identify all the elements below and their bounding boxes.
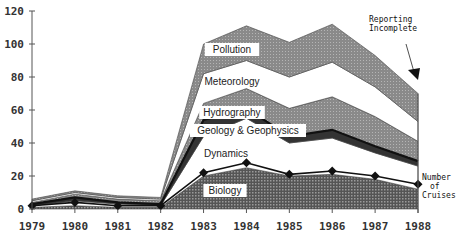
svg-text:Biology: Biology [209,185,242,196]
svg-text:Dynamics: Dynamics [204,148,248,159]
series-label-dynamics: Dynamics [204,148,248,159]
number-of-cruises-label: Number [422,173,451,182]
stacked-area-chart: 0204060801001201979198019811982198319841… [0,0,456,236]
reporting-incomplete-label: Reporting [369,15,413,24]
x-tick-label: 1986 [319,220,346,233]
svg-text:Cruises: Cruises [422,191,456,200]
x-tick-label: 1983 [190,220,217,233]
series-label-geology-geophysics: Geology & Geophysics [190,124,306,137]
series-label-pollution: Pollution [205,43,259,56]
x-tick-label: 1987 [362,220,389,233]
svg-text:of: of [430,182,440,191]
x-tick-label: 1982 [147,220,174,233]
arrow-line [406,44,414,72]
y-tick-label: 100 [4,38,24,51]
x-tick-label: 1979 [19,220,46,233]
y-tick-label: 80 [11,71,24,84]
y-tick-label: 0 [17,203,24,216]
series-label-hydrography: Hydrography [199,106,265,119]
x-tick-label: 1988 [405,220,432,233]
y-tick-label: 120 [4,5,24,18]
series-label-biology: Biology [203,184,246,197]
y-tick-label: 20 [11,170,24,183]
svg-text:Geology & Geophysics: Geology & Geophysics [197,125,299,136]
svg-text:Pollution: Pollution [213,44,251,55]
y-tick-label: 40 [11,137,24,150]
arrow-head-icon [408,68,420,80]
x-tick-label: 1981 [105,220,132,233]
series-label-meteorology: Meteorology [204,76,259,87]
svg-text:Meteorology: Meteorology [204,76,259,87]
x-tick-label: 1985 [276,220,303,233]
svg-text:Incomplete: Incomplete [369,24,417,33]
y-tick-label: 60 [11,104,24,117]
x-tick-label: 1980 [62,220,89,233]
x-tick-label: 1984 [233,220,260,233]
svg-text:Hydrography: Hydrography [203,107,260,118]
